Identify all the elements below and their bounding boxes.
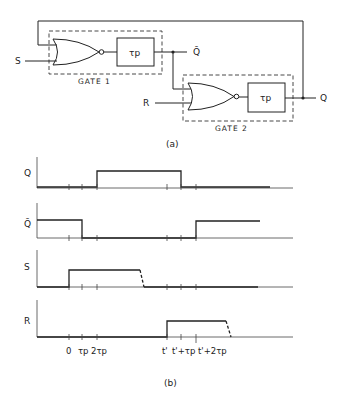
- nor-gate-1-icon: [53, 39, 99, 65]
- waveform-s: S: [24, 250, 293, 290]
- svg-text:Q: Q: [24, 168, 31, 178]
- svg-text:R: R: [24, 316, 30, 326]
- svg-text:τp: τp: [78, 346, 89, 356]
- caption-a: (a): [166, 139, 179, 149]
- inverter-bubble-2-icon: [234, 94, 239, 99]
- waveform-q: Q: [24, 157, 293, 190]
- waveform-qbar: Q̄: [24, 203, 293, 241]
- input-s-label: S: [15, 56, 21, 66]
- output-qbar-label: Q̄: [193, 46, 200, 57]
- svg-text:0: 0: [66, 346, 71, 356]
- output-q-label: Q: [320, 93, 327, 103]
- svg-text:2τp: 2τp: [91, 346, 107, 356]
- junction-q-icon: [301, 96, 304, 99]
- svg-text:S: S: [24, 262, 30, 272]
- inverter-bubble-1-icon: [99, 50, 104, 55]
- delay-label-2: τp: [260, 93, 271, 103]
- waveform-r: R: [24, 300, 293, 343]
- gate1-label: GATE 1: [78, 77, 111, 86]
- gate2-label: GATE 2: [215, 124, 248, 133]
- circuit-diagram: τp Q̄ GATE 1 S τp Q GATE 2 R (a): [15, 21, 327, 149]
- svg-text:t'+τp: t'+τp: [172, 346, 195, 356]
- timing-diagram: Q Q̄ S R: [24, 157, 293, 388]
- nor-gate-2-icon: [188, 83, 234, 110]
- flip-flop-figure: τp Q̄ GATE 1 S τp Q GATE 2 R (a) Q: [0, 0, 340, 406]
- delay-label-1: τp: [129, 48, 140, 58]
- svg-text:Q̄: Q̄: [24, 218, 31, 229]
- caption-b: (b): [164, 378, 177, 388]
- time-axis-labels: 0 τp 2τp t' t'+τp t'+2τp: [66, 346, 227, 356]
- svg-text:t': t': [162, 346, 168, 356]
- feedback-wire: [38, 21, 303, 98]
- input-r-label: R: [143, 98, 149, 108]
- svg-text:t'+2τp: t'+2τp: [198, 346, 227, 356]
